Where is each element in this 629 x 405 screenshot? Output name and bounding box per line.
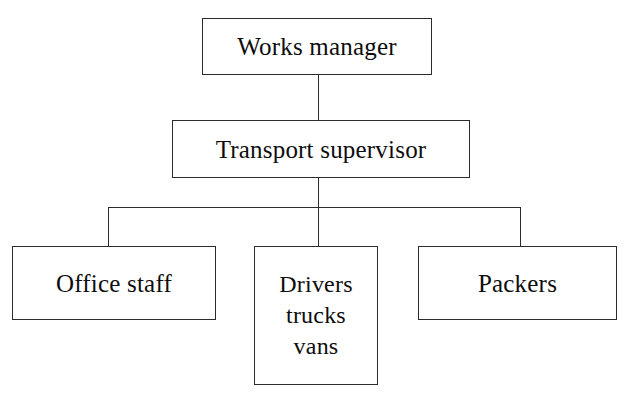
connector-works-manager-to-transport-supervisor	[318, 75, 319, 120]
node-packers-label: Packers	[474, 269, 561, 298]
connector-drop-to-office-staff	[108, 207, 109, 246]
node-works-manager: Works manager	[202, 18, 432, 75]
node-transport-supervisor: Transport supervisor	[172, 120, 470, 178]
node-transport-supervisor-label: Transport supervisor	[212, 135, 431, 164]
node-packers: Packers	[418, 246, 617, 320]
node-drivers-trucks-vans-label: Drivers trucks vans	[275, 269, 356, 363]
org-chart-canvas: Works manager Transport supervisor Offic…	[0, 0, 629, 405]
connector-transport-supervisor-to-drivers	[318, 178, 319, 246]
node-office-staff: Office staff	[12, 246, 216, 320]
connector-drop-to-packers	[520, 207, 521, 246]
node-office-staff-label: Office staff	[52, 269, 176, 298]
node-drivers-trucks-vans: Drivers trucks vans	[254, 246, 378, 385]
connector-horizontal-distribution-bar	[108, 207, 520, 208]
node-works-manager-label: Works manager	[233, 32, 401, 61]
